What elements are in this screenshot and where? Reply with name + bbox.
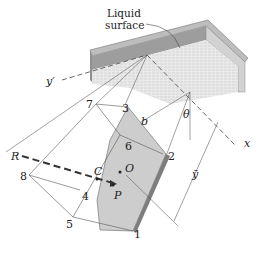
point-c-label: C: [94, 165, 103, 178]
resultant-label: R: [10, 150, 19, 163]
theta-label: θ: [183, 108, 190, 121]
x-label: x: [244, 137, 251, 150]
width-b-label: b: [141, 115, 148, 128]
corner-6: 6: [125, 140, 132, 153]
corner-1: 1: [134, 228, 141, 241]
container: [90, 20, 248, 104]
y-bar-label: ȳ: [191, 168, 199, 181]
caption-line1: Liquid: [107, 7, 141, 19]
corner-4: 4: [82, 190, 89, 203]
corner-7: 7: [86, 98, 93, 111]
y-prime-label: y′: [45, 75, 55, 88]
point-p-label: P: [113, 189, 122, 202]
pressure-diagram: Liquid surface y′ x θ ȳ R: [0, 0, 260, 253]
corner-3: 3: [122, 102, 129, 115]
point-o-label: O: [125, 162, 134, 175]
corner-2: 2: [168, 150, 175, 163]
caption-line2: surface: [105, 19, 144, 31]
point-o-dot: [119, 171, 122, 174]
corner-5: 5: [66, 218, 73, 231]
point-p-dot: [112, 184, 115, 187]
corner-8: 8: [20, 170, 27, 183]
